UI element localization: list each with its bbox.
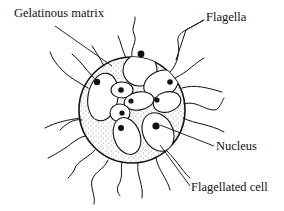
nucleus [119,110,124,115]
nucleus [118,125,124,131]
nucleus [138,51,145,58]
label-nucleus: Nucleus [216,140,257,153]
leader-flagella [186,20,204,30]
leader-cell [160,145,190,186]
nucleus [118,87,124,93]
nucleus [152,122,159,129]
leader-matrix [55,26,112,66]
label-gelatinous-matrix: Gelatinous matrix [14,7,104,20]
nucleus [167,79,173,85]
label-flagella: Flagella [206,11,246,24]
label-flagellated-cell: Flagellated cell [191,181,268,194]
nucleus [94,79,100,85]
nucleus [154,97,159,102]
nucleus [128,98,133,103]
